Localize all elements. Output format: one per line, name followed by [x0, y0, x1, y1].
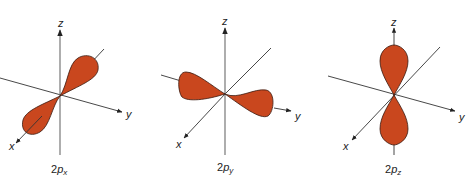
- lobe-lower: [22, 96, 60, 134]
- panel-2px: z y x 2px: [0, 17, 133, 177]
- z-axis-label: z: [390, 16, 397, 28]
- y-axis-label: y: [294, 110, 302, 122]
- y-axis-label: y: [458, 111, 466, 123]
- p-orbitals-figure: z y x 2px z y x 2py: [0, 0, 476, 188]
- orbital-diagram-canvas: z y x 2px z y x 2py: [0, 0, 476, 188]
- panel-2pz: z y x 2pz: [328, 16, 466, 177]
- x-axis-label: x: [8, 140, 15, 152]
- x-axis-label: x: [342, 140, 349, 152]
- y-axis-front: [274, 108, 291, 111]
- orbital-label-2py: 2py: [217, 161, 234, 175]
- orbital-label-2pz: 2pz: [385, 163, 401, 177]
- y-axis-label: y: [125, 108, 133, 120]
- orbital-lobes-z: [380, 45, 408, 145]
- lobe-lower: [380, 95, 408, 145]
- panel-2py: z y x 2py: [161, 15, 302, 175]
- z-axis-label: z: [221, 15, 228, 27]
- x-axis-front: [184, 94, 225, 138]
- x-axis-back: [225, 48, 271, 94]
- lobe-upper: [60, 56, 98, 96]
- orbital-lobes-y: [179, 72, 273, 117]
- orbital-label-2px: 2px: [51, 163, 68, 177]
- x-axis-label: x: [175, 138, 182, 150]
- lobe-left: [179, 72, 225, 100]
- lobe-upper: [380, 45, 408, 95]
- z-axis-label: z: [57, 17, 64, 29]
- lobe-right: [225, 90, 273, 117]
